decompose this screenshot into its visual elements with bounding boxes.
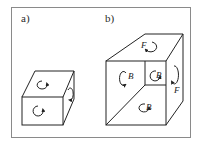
label-top-F: F <box>140 40 147 50</box>
rotation-arrow-icon <box>37 81 47 89</box>
label-inner-B: B <box>156 70 162 80</box>
rotation-arrow-icon <box>172 66 178 84</box>
panel-a-cube <box>22 71 74 125</box>
rotation-arrow-icon <box>68 88 73 100</box>
rotation-arrow-icon <box>146 42 157 52</box>
label-right-F: F <box>173 85 180 95</box>
cube-a-top-face <box>22 71 74 97</box>
rotation-arrow-icon <box>33 106 43 116</box>
cube-b-diagonal-edge <box>106 85 145 125</box>
label-front-bottom-B: B <box>146 102 152 112</box>
label-front-left-B: B <box>128 71 134 81</box>
cube-a-front-face <box>22 97 63 125</box>
rotation-arrow-icon <box>120 71 126 85</box>
cube-diagram: F F B B B <box>0 0 208 152</box>
